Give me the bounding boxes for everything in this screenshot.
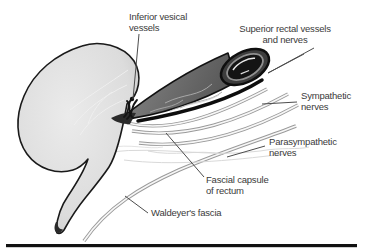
label-line: nerves bbox=[301, 102, 351, 113]
leader-superior-rectal bbox=[268, 48, 314, 73]
label-fascial-capsule: Fascial capsule of rectum bbox=[206, 175, 268, 196]
bottom-rule bbox=[6, 244, 357, 247]
figure-canvas: Inferior vesical vessels Superior rectal… bbox=[0, 0, 365, 251]
label-waldeyers-fascia: Waldeyer's fascia bbox=[151, 208, 221, 219]
label-line: Waldeyer's fascia bbox=[151, 208, 221, 219]
label-line: vessels bbox=[129, 23, 187, 34]
label-line: Fascial capsule bbox=[206, 175, 268, 186]
label-line: Inferior vesical bbox=[129, 12, 187, 23]
label-line: of rectum bbox=[206, 186, 268, 197]
label-line: Superior rectal vessels bbox=[234, 24, 336, 35]
label-line: and nerves bbox=[234, 35, 336, 46]
label-superior-rectal-vessels: Superior rectal vessels and nerves bbox=[234, 24, 336, 45]
label-line: Sympathetic bbox=[301, 91, 351, 102]
label-parasympathetic-nerves: Parasympathetic nerves bbox=[269, 137, 337, 158]
rectum-shape bbox=[119, 42, 275, 121]
label-inferior-vesical-vessels: Inferior vesical vessels bbox=[129, 12, 187, 33]
label-line: nerves bbox=[269, 148, 337, 159]
label-sympathetic-nerves: Sympathetic nerves bbox=[301, 91, 351, 112]
label-line: Parasympathetic bbox=[269, 137, 337, 148]
leader-waldeyers bbox=[125, 196, 148, 213]
